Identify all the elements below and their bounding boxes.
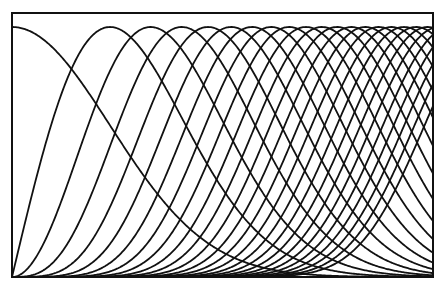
- curve-k-20: [12, 34, 434, 277]
- curve-group: [12, 27, 434, 277]
- curve-family-chart: [0, 0, 442, 287]
- chart-container: [0, 0, 442, 287]
